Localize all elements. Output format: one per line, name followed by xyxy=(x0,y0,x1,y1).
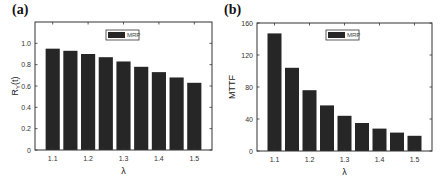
bar xyxy=(268,33,282,151)
x-tick-label: 1.4 xyxy=(375,156,385,163)
x-tick-label: 1.4 xyxy=(154,155,164,162)
y-axis-label: MTTF xyxy=(227,75,237,99)
y-tick-label: 1.0 xyxy=(21,40,31,47)
bar xyxy=(81,54,95,150)
bar xyxy=(170,77,184,150)
x-tick-label: 1.5 xyxy=(410,156,420,163)
bar xyxy=(320,105,334,151)
bar xyxy=(303,90,317,151)
y-tick-label: 0.2 xyxy=(21,125,31,132)
chart-panel-a: (a) 00.20.40.60.81.01.11.21.31.41.5λRY(t… xyxy=(0,0,222,179)
x-tick-label: 1.1 xyxy=(48,155,58,162)
bar xyxy=(46,49,60,150)
x-tick-label: 1.3 xyxy=(119,155,129,162)
x-tick-label: 1.5 xyxy=(189,155,199,162)
y-tick-label: 0.4 xyxy=(21,104,31,111)
bar-chart-reliability: 00.20.40.60.81.01.11.21.31.41.5λRY(t)MRP xyxy=(0,0,222,179)
x-tick-label: 1.2 xyxy=(83,155,93,162)
bar-chart-mttf: 040801201601.11.21.31.41.5λMTTFMRP xyxy=(222,0,444,179)
bar xyxy=(116,61,130,150)
bar xyxy=(187,83,201,150)
legend-swatch xyxy=(328,32,345,38)
bar xyxy=(134,67,148,150)
y-tick-label: 0.6 xyxy=(21,83,31,90)
bar xyxy=(63,51,77,150)
y-tick-label: 160 xyxy=(241,20,253,27)
x-axis-label: λ xyxy=(342,167,347,177)
x-tick-label: 1.1 xyxy=(270,156,280,163)
y-tick-label: 40 xyxy=(245,116,253,123)
y-tick-label: 80 xyxy=(245,84,253,91)
y-tick-label: 120 xyxy=(241,52,253,59)
bar xyxy=(390,133,404,151)
y-tick-label: 0 xyxy=(27,147,31,154)
bar xyxy=(373,129,387,151)
y-tick-label: 0.8 xyxy=(21,61,31,68)
y-axis-label: RY(t) xyxy=(10,76,21,95)
bar xyxy=(338,116,352,151)
bar xyxy=(152,72,166,150)
y-tick-label: 0 xyxy=(249,148,253,155)
x-axis-label: λ xyxy=(121,166,126,176)
legend-swatch xyxy=(108,32,125,38)
chart-panel-b: (b) 040801201601.11.21.31.41.5λMTTFMRP xyxy=(222,0,444,179)
legend-label: MRP xyxy=(347,32,360,38)
legend-label: MRP xyxy=(127,32,140,38)
x-tick-label: 1.2 xyxy=(305,156,315,163)
x-tick-label: 1.3 xyxy=(340,156,350,163)
bar xyxy=(355,123,369,151)
bar xyxy=(99,57,113,150)
bar xyxy=(285,68,299,151)
